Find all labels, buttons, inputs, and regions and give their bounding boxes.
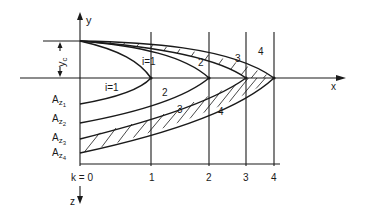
z-arrow-icon [77,196,83,204]
y-axis: y [77,12,92,166]
characteristics-diagram: y x yc [0,0,371,221]
dim-arrow-down-icon [58,71,63,77]
k-label-0: k = 0 [71,172,93,183]
lower-label-4: 4 [218,106,224,117]
k-label-1: 1 [149,172,155,183]
x-arrow-icon [336,75,346,81]
upper-curves [80,41,274,78]
yc-dimension: yc [43,41,80,77]
upper-label-3: 3 [235,53,241,64]
az-label-1: Az1 [52,94,67,108]
dim-arrow-up-icon [58,42,63,48]
az-label-2: Az2 [52,113,67,127]
area-labels: Az1 Az2 Az3 Az4 [52,94,67,161]
k-label-2: 2 [206,172,212,183]
upper-curve-3 [80,41,246,78]
upper-label-2: 2 [198,57,204,68]
x-axis-label: x [331,81,336,92]
z-axis-label: z [70,196,75,207]
az-label-3: Az3 [52,132,67,146]
k-label-4: 4 [271,172,277,183]
y-axis-label: y [86,14,92,26]
upper-label-1: i=1 [142,56,156,67]
z-axis: z [70,186,83,207]
y-arrow-icon [77,12,83,20]
x-axis: x [20,75,346,92]
upper-label-4: 4 [258,46,264,57]
k-label-3: 3 [243,172,249,183]
k-tick-labels: k = 0 1 2 3 4 [71,172,277,183]
lower-label-3: 3 [177,104,183,115]
az-label-4: Az4 [52,147,67,161]
lower-label-2: 2 [162,87,168,98]
lower-label-1: i=1 [105,82,119,93]
